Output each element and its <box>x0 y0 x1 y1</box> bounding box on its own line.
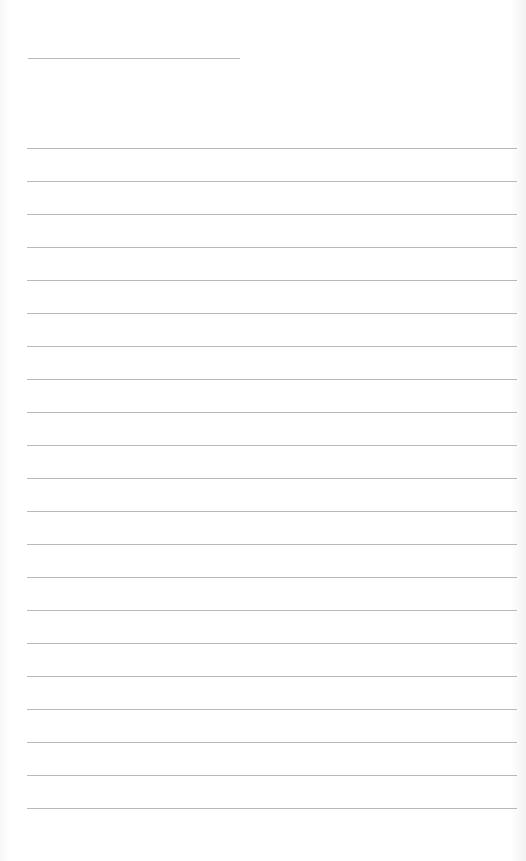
lined-paper-page <box>0 0 526 861</box>
ruled-line <box>27 379 517 380</box>
ruled-line <box>27 709 517 710</box>
ruled-line <box>27 247 517 248</box>
ruled-line <box>27 313 517 314</box>
ruled-line <box>27 544 517 545</box>
ruled-line <box>27 775 517 776</box>
ruled-line <box>27 412 517 413</box>
ruled-line <box>27 610 517 611</box>
ruled-line <box>27 676 517 677</box>
ruled-line <box>27 808 517 809</box>
ruled-line <box>27 445 517 446</box>
ruled-line <box>27 280 517 281</box>
header-title-line <box>28 58 240 59</box>
ruled-line <box>27 214 517 215</box>
ruled-line <box>27 478 517 479</box>
ruled-line <box>27 742 517 743</box>
ruled-line <box>27 643 517 644</box>
ruled-line <box>27 181 517 182</box>
ruled-line <box>27 511 517 512</box>
ruled-line <box>27 346 517 347</box>
ruled-line <box>27 577 517 578</box>
ruled-line <box>27 148 517 149</box>
